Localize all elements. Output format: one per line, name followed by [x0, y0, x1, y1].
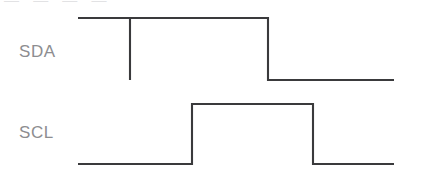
timing-diagram-canvas: — — — — SDA SCL: [0, 0, 427, 178]
waveform-trace-sda: [78, 18, 394, 80]
waveform-trace-scl: [78, 104, 394, 164]
waveform-group: [0, 0, 427, 178]
